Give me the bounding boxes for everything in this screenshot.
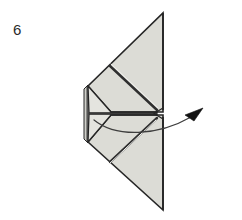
left-layer-stack <box>84 85 88 143</box>
diagram-canvas: 6 <box>0 0 242 220</box>
upper-triangle-flap <box>88 13 163 112</box>
upper-triangle-flap-shape <box>88 13 163 112</box>
origami-figure <box>0 0 242 220</box>
